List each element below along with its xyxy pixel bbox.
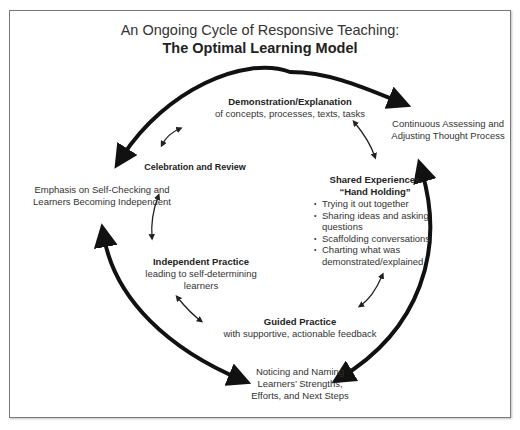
diagram-title-line1: An Ongoing Cycle of Responsive Teaching: bbox=[0, 22, 520, 38]
inner-arrow-demo-shared bbox=[355, 123, 375, 157]
stage-demonstration: Demonstration/Explanation of concepts, p… bbox=[190, 96, 390, 120]
bullet-item: Trying it out together bbox=[314, 198, 440, 210]
stage-shared-heading2: “Hand Holding” bbox=[310, 186, 440, 198]
stage-independent-sub1: leading to self-determining bbox=[126, 268, 276, 280]
label-emphasis-line2: Learners Becoming Independent bbox=[12, 196, 192, 208]
stage-shared-heading1: Shared Experiences bbox=[310, 174, 440, 186]
stage-celebration: Celebration and Review bbox=[130, 161, 260, 173]
stage-guided-sub: with supportive, actionable feedback bbox=[205, 328, 395, 340]
label-continuous-line1: Continuous Assessing and bbox=[378, 118, 518, 130]
label-noticing-line3: Efforts, and Next Steps bbox=[230, 390, 370, 402]
label-noticing-naming: Noticing and Naming Learners’ Strengths,… bbox=[230, 366, 370, 402]
inner-arrow-demo-celebration bbox=[162, 129, 179, 145]
inner-arrow-independent-guided bbox=[178, 298, 201, 321]
stage-guided-heading: Guided Practice bbox=[205, 316, 395, 328]
label-noticing-line1: Noticing and Naming bbox=[230, 366, 370, 378]
label-continuous-line2: Adjusting Thought Process bbox=[378, 130, 518, 142]
label-emphasis: Emphasis on Self-Checking and Learners B… bbox=[12, 184, 192, 208]
label-continuous-assessing: Continuous Assessing and Adjusting Thoug… bbox=[378, 118, 518, 142]
inner-arrow-shared-guided bbox=[360, 276, 382, 306]
bullet-item: Sharing ideas and asking questions bbox=[314, 210, 440, 233]
label-emphasis-line1: Emphasis on Self-Checking and bbox=[12, 184, 192, 196]
stage-demonstration-heading: Demonstration/Explanation bbox=[190, 96, 390, 108]
label-noticing-line2: Learners’ Strengths, bbox=[230, 378, 370, 390]
stage-demonstration-sub: of concepts, processes, texts, tasks bbox=[190, 108, 390, 120]
stage-shared-bullets: Trying it out together Sharing ideas and… bbox=[314, 198, 440, 267]
bullet-item: Charting what was demonstrated/explained bbox=[314, 244, 440, 267]
diagram-title-line2: The Optimal Learning Model bbox=[0, 40, 520, 56]
stage-independent-sub2: learners bbox=[126, 280, 276, 292]
stage-shared-experiences: Shared Experiences “Hand Holding” Trying… bbox=[310, 174, 440, 267]
bullet-item: Scaffolding conversations bbox=[314, 233, 440, 245]
stage-independent-practice: Independent Practice leading to self-det… bbox=[126, 256, 276, 292]
stage-independent-heading: Independent Practice bbox=[126, 256, 276, 268]
stage-guided-practice: Guided Practice with supportive, actiona… bbox=[205, 316, 395, 340]
